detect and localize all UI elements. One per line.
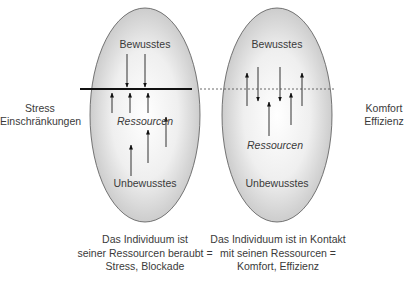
right-middle-label: Ressourcen bbox=[240, 139, 310, 152]
right-bottom-label: Unbewusstes bbox=[237, 177, 317, 190]
right-top-label: Bewusstes bbox=[247, 38, 307, 51]
left-top-label: Bewusstes bbox=[115, 38, 175, 51]
right-caption-line-2: mit seinen Ressourcen = bbox=[203, 247, 353, 261]
left-caption: Das Individuum ist seiner Ressourcen ber… bbox=[70, 233, 220, 274]
left-bottom-label: Unbewusstes bbox=[105, 177, 185, 190]
right-side-line-1: Komfort bbox=[355, 102, 413, 115]
right-caption: Das Individuum ist in Kontakt mit seinen… bbox=[203, 233, 353, 274]
left-caption-line-1: Das Individuum ist bbox=[70, 233, 220, 247]
left-middle-label: Ressourcen bbox=[110, 115, 180, 128]
left-caption-line-3: Stress, Blockade bbox=[70, 260, 220, 274]
left-caption-line-2: seiner Ressourcen beraubt = bbox=[70, 247, 220, 261]
left-side-line-1: Stress bbox=[0, 102, 80, 115]
right-caption-line-1: Das Individuum ist in Kontakt bbox=[203, 233, 353, 247]
left-side-label: Stress Einschränkungen bbox=[0, 102, 80, 128]
right-side-line-2: Effizienz bbox=[355, 115, 413, 128]
right-side-label: Komfort Effizienz bbox=[355, 102, 413, 128]
right-caption-line-3: Komfort, Effizienz bbox=[203, 260, 353, 274]
left-side-line-2: Einschränkungen bbox=[0, 115, 80, 128]
